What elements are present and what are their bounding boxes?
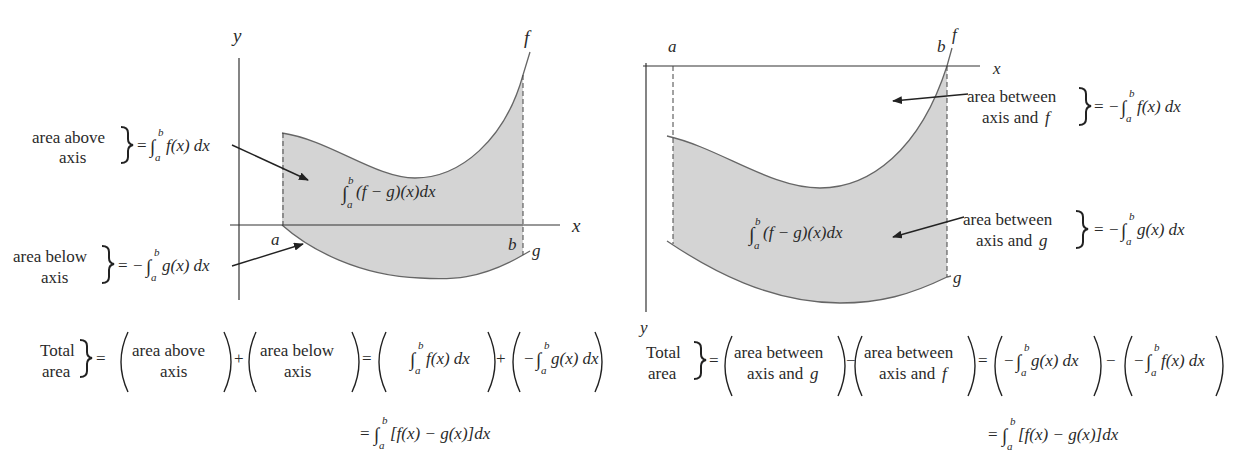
svg-text:=: =	[362, 349, 372, 368]
brace-icon	[1076, 211, 1088, 248]
left-y-label: y	[231, 25, 242, 46]
svg-text:+: +	[496, 349, 506, 368]
svg-text:g(x) dx: g(x) dx	[551, 349, 599, 368]
svg-text:a: a	[347, 198, 353, 210]
svg-text:a: a	[1007, 440, 1013, 452]
svg-text:area below: area below	[13, 247, 88, 266]
right-annotation-g: area between axis and g = − ∫ b a g(x) d…	[963, 210, 1185, 250]
svg-text:b: b	[1129, 210, 1135, 222]
svg-text:a: a	[1126, 112, 1132, 124]
svg-text:axis and: axis and	[976, 231, 1033, 250]
svg-text:area above: area above	[32, 128, 105, 147]
left-annotation-below: area below axis = − ∫ b a g(x) dx	[13, 246, 210, 287]
svg-text:a: a	[155, 151, 161, 163]
svg-text:b: b	[154, 246, 160, 258]
svg-text:Total: Total	[40, 341, 75, 360]
svg-text:b: b	[1129, 87, 1135, 99]
svg-text:b: b	[1154, 341, 1160, 353]
svg-text:=: =	[978, 351, 988, 370]
svg-text:axis: axis	[59, 148, 86, 167]
svg-text:−: −	[1106, 351, 1116, 370]
left-diagram: y x f g a b ∫ b a (f − g)(x)dx area abov…	[13, 25, 602, 451]
svg-text:f(x) dx: f(x) dx	[166, 136, 210, 155]
svg-text:axis: axis	[284, 362, 311, 381]
svg-text:[f(x) − g(x)]dx: [f(x) − g(x)]dx	[1018, 425, 1119, 444]
svg-text:=: =	[96, 349, 106, 368]
svg-text:(f − g)(x)dx: (f − g)(x)dx	[356, 182, 436, 201]
left-a-label: a	[271, 230, 280, 249]
right-f-label: f	[952, 25, 959, 44]
brace-icon	[1079, 88, 1091, 125]
svg-text:a: a	[754, 239, 760, 251]
svg-text:b: b	[544, 339, 550, 351]
svg-text:area: area	[648, 364, 677, 383]
left-x-label: x	[571, 215, 581, 236]
svg-text:area between: area between	[734, 343, 824, 362]
svg-text:−: −	[846, 351, 856, 370]
svg-text:−: −	[1109, 97, 1119, 116]
svg-text:f(x) dx: f(x) dx	[426, 349, 470, 368]
svg-text:area: area	[42, 362, 71, 381]
svg-text:g(x) dx: g(x) dx	[1137, 220, 1185, 239]
svg-text:b: b	[755, 215, 761, 227]
svg-text:=: =	[360, 424, 370, 443]
right-y-label: y	[638, 318, 648, 337]
svg-text:axis and: axis and	[747, 364, 804, 383]
svg-text:a: a	[415, 364, 421, 376]
svg-text:axis and: axis and	[982, 108, 1039, 127]
svg-text:=: =	[118, 256, 128, 275]
svg-text:axis: axis	[160, 362, 187, 381]
svg-text:=: =	[1094, 220, 1104, 239]
svg-text:a: a	[151, 271, 157, 283]
svg-text:=: =	[137, 136, 147, 155]
svg-text:=: =	[709, 351, 719, 370]
svg-text:−: −	[1134, 351, 1144, 370]
svg-text:(f − g)(x)dx: (f − g)(x)dx	[763, 223, 843, 242]
right-g-label: g	[953, 268, 962, 287]
svg-text:axis: axis	[41, 268, 68, 287]
svg-text:−: −	[524, 349, 534, 368]
svg-text:a: a	[379, 439, 385, 451]
right-diagram: y x f g a b ∫ b a (f − g)(x)dx area betw…	[638, 25, 1223, 452]
left-g-label: g	[532, 241, 541, 260]
svg-text:f: f	[942, 364, 949, 383]
svg-text:=: =	[1094, 97, 1104, 116]
right-a-label: a	[668, 37, 677, 56]
svg-text:b: b	[1010, 415, 1016, 427]
svg-text:b: b	[418, 339, 424, 351]
svg-text:+: +	[234, 349, 244, 368]
svg-text:b: b	[1024, 341, 1030, 353]
svg-text:a: a	[1151, 366, 1157, 378]
right-total-formula: Total area = area between axis and g − a…	[646, 336, 1223, 452]
left-b-label: b	[508, 235, 517, 254]
svg-text:g: g	[1039, 231, 1048, 250]
right-annotation-f: area between axis and f = − ∫ b a f(x) d…	[967, 87, 1181, 127]
svg-text:−: −	[133, 256, 143, 275]
svg-text:g(x) dx: g(x) dx	[1031, 351, 1079, 370]
svg-text:a: a	[541, 364, 547, 376]
svg-text:b: b	[158, 126, 164, 138]
brace-icon	[121, 127, 133, 163]
svg-text:area above: area above	[132, 341, 205, 360]
svg-text:b: b	[382, 414, 388, 426]
right-b-label: b	[937, 37, 946, 56]
svg-text:−: −	[1004, 351, 1014, 370]
svg-text:f(x) dx: f(x) dx	[1137, 97, 1181, 116]
brace-icon	[102, 246, 114, 283]
svg-text:g(x) dx: g(x) dx	[162, 256, 210, 275]
left-f-label: f	[524, 27, 532, 48]
svg-text:area between: area between	[864, 343, 954, 362]
svg-text:f(x) dx: f(x) dx	[1161, 351, 1205, 370]
svg-text:[f(x) − g(x)]dx: [f(x) − g(x)]dx	[390, 424, 491, 443]
svg-text:area between: area between	[967, 87, 1057, 106]
svg-text:a: a	[1021, 366, 1027, 378]
svg-text:a: a	[1126, 235, 1132, 247]
left-total-formula: Total area = area above axis + area belo…	[40, 332, 602, 451]
svg-text:axis and: axis and	[879, 364, 936, 383]
svg-text:f: f	[1045, 108, 1052, 127]
right-x-label: x	[992, 59, 1001, 78]
brace-icon	[694, 342, 706, 379]
diagram-canvas: y x f g a b ∫ b a (f − g)(x)dx area abov…	[0, 0, 1238, 473]
brace-icon	[80, 340, 92, 377]
svg-text:area below: area below	[260, 341, 335, 360]
